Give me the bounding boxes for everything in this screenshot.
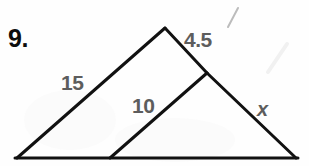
geometry-problem-figure: 9. 15 4.5 10 x — [0, 0, 309, 166]
side-label-upper-right: 4.5 — [184, 29, 212, 50]
side-label-unknown-x: x — [257, 99, 268, 119]
slash-mark-top-right-artifact — [228, 8, 238, 27]
side-label-left-hypotenuse: 15 — [61, 72, 83, 93]
faint-streak-right-artifact — [268, 44, 287, 72]
problem-number: 9. — [8, 26, 28, 51]
triangle-diagram-svg — [0, 0, 309, 166]
smudge-artifact-center — [115, 118, 235, 162]
side-label-inner-segment: 10 — [132, 95, 154, 116]
